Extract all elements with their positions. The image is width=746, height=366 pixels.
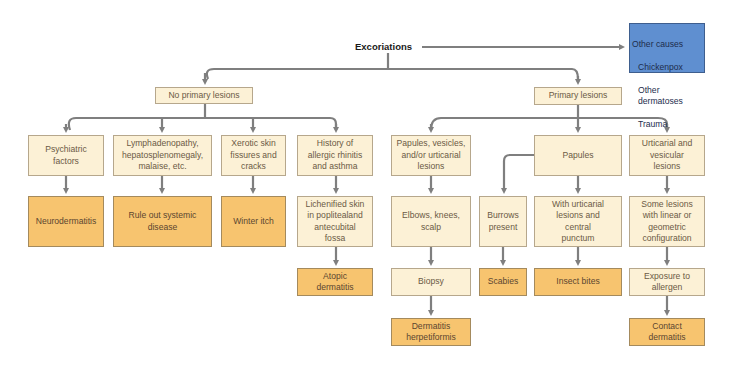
node-elbows-knees-scalp: Elbows, knees, scalp [391, 196, 471, 247]
other-cause-item: Chickenpox [632, 62, 702, 74]
outcome-neurodermatitis: Neurodermatitis [28, 196, 104, 247]
node-lymphadenopathy: Lymphadenopathy, hepatosplenomegaly, mal… [113, 135, 212, 176]
outcome-dermatitis-herpetiformis: Dermatitis herpetiformis [391, 318, 471, 346]
node-linear-geometric: Some lesions with linear or geometric co… [629, 196, 705, 247]
node-papules: Papules [534, 135, 622, 176]
other-cause-item: Trauma [632, 119, 702, 131]
node-lichenified-skin: Lichenified skin in poplitealand antecub… [297, 196, 373, 247]
root-node-excoriations: Excoriations [355, 41, 412, 52]
other-causes-box: Other causes Chickenpox Other dermatoses… [629, 23, 705, 73]
node-with-urticarial-lesions: With urticarial lesions and central punc… [534, 196, 622, 247]
node-no-primary-lesions: No primary lesions [155, 87, 253, 104]
node-urticarial-vesicular: Urticarial and vesicular lesions [629, 135, 705, 176]
node-exposure-allergen: Exposure to allergen [629, 268, 705, 296]
other-causes-heading: Other causes [632, 39, 702, 51]
outcome-insect-bites: Insect bites [534, 268, 622, 296]
flowchart: Excoriations Other causes Chickenpox Oth… [0, 0, 746, 366]
node-burrows-present: Burrows present [479, 196, 527, 247]
outcome-scabies: Scabies [479, 268, 527, 296]
outcome-winter-itch: Winter itch [221, 196, 286, 247]
outcome-rule-out-systemic: Rule out systemic disease [113, 196, 212, 247]
node-papules-vesicles: Papules, vesicles, and/or urticarial les… [391, 135, 471, 176]
node-psychiatric-factors: Psychiatric factors [28, 135, 104, 176]
other-cause-item: Other dermatoses [632, 85, 702, 108]
outcome-contact-dermatitis: Contact dermatitis [629, 318, 705, 346]
node-xerotic-skin: Xerotic skin fissures and cracks [221, 135, 286, 176]
outcome-atopic-dermatitis: Atopic dermatitis [297, 268, 373, 296]
node-biopsy: Biopsy [391, 268, 471, 296]
node-primary-lesions: Primary lesions [534, 87, 622, 105]
node-history-allergic: History of allergic rhinitis and asthma [297, 135, 373, 176]
